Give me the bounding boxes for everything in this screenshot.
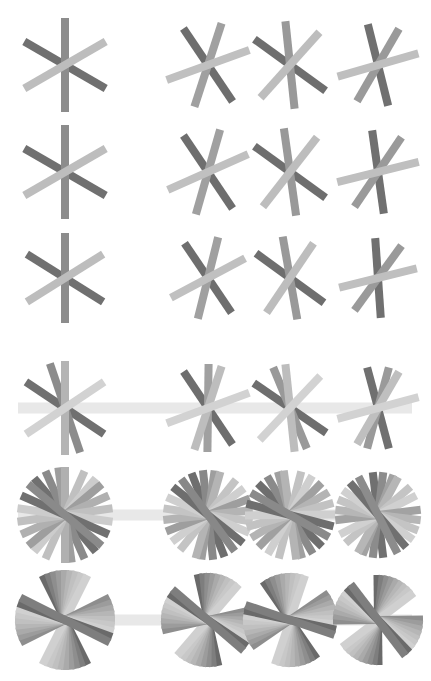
glyph-row bbox=[17, 467, 420, 563]
asterisk-glyph bbox=[333, 575, 423, 665]
asterisk-glyph bbox=[161, 573, 255, 667]
glyph-grid-svg bbox=[0, 0, 431, 681]
glyph-grid-canvas bbox=[0, 0, 431, 681]
asterisk-glyph bbox=[335, 472, 420, 557]
